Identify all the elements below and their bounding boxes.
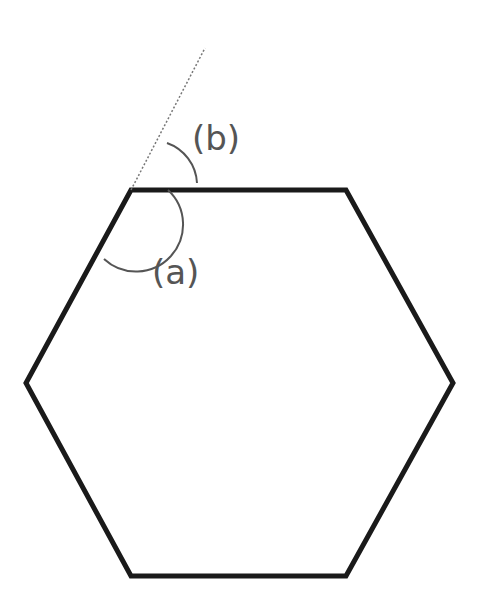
hexagon-diagram: (b) (a): [0, 0, 482, 610]
label-b: (b): [192, 118, 240, 158]
label-a: (a): [152, 252, 199, 292]
hexagon-shape: [26, 190, 453, 576]
